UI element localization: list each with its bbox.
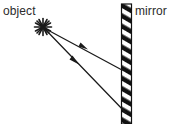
object-label: object xyxy=(3,5,36,18)
mirror-hatch-fill xyxy=(122,4,132,124)
lower-ray-arrowhead xyxy=(70,56,80,65)
mirror-label: mirror xyxy=(135,5,167,18)
ray-diagram-figure: object mirror xyxy=(0,0,170,124)
upper-incident-ray xyxy=(44,28,122,70)
object-starburst-icon xyxy=(35,19,52,36)
lower-incident-ray xyxy=(44,28,126,113)
lower-ray-line xyxy=(44,28,126,113)
upper-ray-line xyxy=(44,28,122,70)
diagram-canvas xyxy=(0,0,170,124)
mirror-bar xyxy=(122,4,132,124)
